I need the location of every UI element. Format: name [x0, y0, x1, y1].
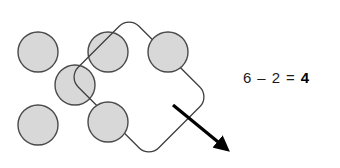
counter-4 [18, 105, 58, 145]
counter-5 [148, 32, 188, 72]
counter-6 [88, 102, 128, 142]
equation-minuend: 6 [243, 70, 251, 85]
subtraction-equation: 6 – 2 = 4 [243, 63, 338, 91]
equation-subtrahend: 2 [272, 70, 280, 85]
equation-equals-sign: = [280, 70, 301, 85]
counter-1 [18, 32, 58, 72]
worksheet-canvas: 6 – 2 = 4 [0, 0, 340, 168]
equation-minus-operator: – [251, 70, 271, 85]
equation-difference: 4 [301, 70, 309, 85]
